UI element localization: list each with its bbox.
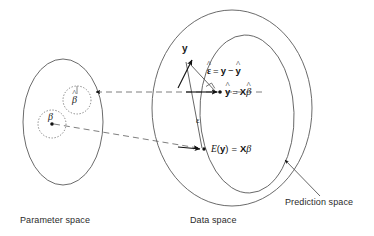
- expectation-equation-label: E(y)=Xβ: [211, 144, 251, 155]
- fitted-y-hat-accent: ^: [225, 81, 229, 90]
- expectation-point-dot: [202, 147, 205, 150]
- beta-hat-accent: ^: [72, 89, 76, 98]
- mapping-arrow-lower: [54, 124, 198, 148]
- beta-hat-label: ^ β: [72, 95, 77, 105]
- beta-label: β: [48, 112, 53, 122]
- data-space-caption: Data space: [190, 216, 237, 225]
- data-space-ellipse: [152, 10, 312, 206]
- residual-equation-label: ^ ε =y− ^ y: [207, 66, 241, 77]
- expectation-close-paren: ): [225, 143, 228, 154]
- y-hat-point-dot: [218, 90, 221, 93]
- prediction-space-leader-line: [285, 160, 320, 196]
- expectation-equals: =: [231, 143, 237, 154]
- y-vector-label: y: [182, 44, 188, 54]
- epsilon-label: ε: [196, 116, 200, 125]
- epsilon-hat-accent: ^: [207, 60, 211, 69]
- beta-center-dot: [50, 122, 54, 126]
- residual-equals: =: [213, 65, 219, 76]
- residual-y-hat-accent: ^: [236, 60, 240, 69]
- residual-minus: −: [228, 65, 234, 76]
- prediction-space-caption: Prediction space: [285, 198, 353, 207]
- residual-rhs-y: y: [221, 65, 226, 76]
- parameter-space-ellipse: [23, 59, 103, 185]
- beta-symbol: β: [48, 111, 53, 122]
- fitted-beta-hat-accent: ^: [246, 81, 250, 90]
- fitted-equals: =: [232, 86, 238, 97]
- parameter-space-caption: Parameter space: [20, 216, 90, 225]
- expectation-beta-symbol: β: [246, 143, 251, 154]
- fitted-equation-label: ^ y =X ^ β: [225, 87, 251, 97]
- figure-root: ^ β β y ^ ε =y− ^ y ^ y =X ^ β ε E(y): [0, 0, 374, 236]
- prediction-space-ellipse: [197, 33, 296, 194]
